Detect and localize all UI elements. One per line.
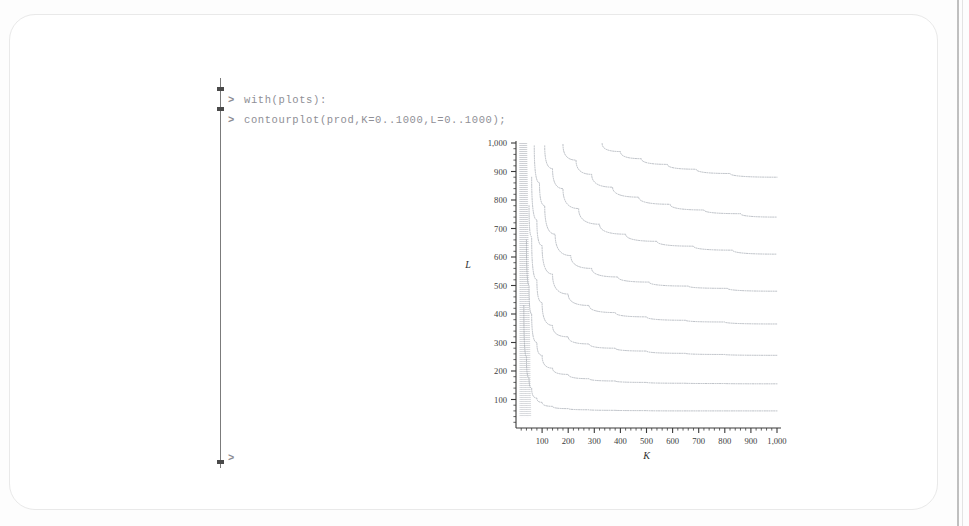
worksheet-page: >with(plots): >contourplot(prod,K=0..100… <box>9 14 938 510</box>
contour-plot-svg: 1002003004005006007008009001,00010020030… <box>452 135 800 465</box>
input-text-2[interactable]: contourplot(prod,K=0..1000,L=0..1000); <box>244 114 506 126</box>
execution-group-tick-bottom <box>217 460 224 464</box>
contour-curve <box>532 177 777 324</box>
x-tick-label: 100 <box>536 436 549 446</box>
y-tick-label: 500 <box>494 281 507 291</box>
plot-axes <box>511 141 781 433</box>
y-axis-label: L <box>464 259 471 270</box>
execution-group-tick-top <box>217 87 224 91</box>
y-tick-label: 700 <box>494 224 507 234</box>
y-tick-label: 200 <box>494 366 507 376</box>
prompt-symbol-2: > <box>228 114 244 126</box>
prompt-symbol-1: > <box>228 94 244 106</box>
contour-curve <box>563 144 777 217</box>
contour-curve-dense <box>522 143 524 417</box>
x-tick-label: 200 <box>562 436 575 446</box>
y-tick-label: 900 <box>494 167 507 177</box>
contour-curve-dense <box>520 143 521 417</box>
contour-curve-dense <box>523 143 525 417</box>
x-axis-label: K <box>642 450 651 461</box>
contour-curve-dense <box>521 143 522 417</box>
vertical-scrollbar-rule[interactable] <box>957 0 959 526</box>
contour-curve <box>545 146 777 254</box>
x-tick-label: 900 <box>744 436 757 446</box>
contour-curve <box>524 305 777 410</box>
contour-plot-output[interactable]: 1002003004005006007008009001,00010020030… <box>452 135 800 465</box>
y-tick-label: 300 <box>494 338 507 348</box>
x-tick-label: 300 <box>588 436 601 446</box>
y-tick-label: 800 <box>494 195 507 205</box>
contour-curve-dense <box>523 143 525 417</box>
plot-labels: 1002003004005006007008009001,00010020030… <box>464 138 786 461</box>
y-tick-label: 600 <box>494 252 507 262</box>
contour-curve-dense <box>521 143 522 417</box>
contour-curve <box>534 146 777 291</box>
x-tick-label: 400 <box>614 436 627 446</box>
x-tick-label: 1,000 <box>767 436 786 446</box>
input-text-1[interactable]: with(plots): <box>244 94 327 106</box>
execution-group-bracket[interactable] <box>215 78 229 468</box>
x-tick-label: 600 <box>666 436 679 446</box>
input-line-1[interactable]: >with(plots): <box>228 94 327 106</box>
contour-curve <box>526 240 777 384</box>
input-line-2[interactable]: >contourplot(prod,K=0..1000,L=0..1000); <box>228 114 506 126</box>
vertical-scrollbar-edge <box>962 0 963 526</box>
contour-curves <box>520 143 777 417</box>
contour-curve <box>602 144 777 178</box>
execution-group-rule <box>220 78 221 468</box>
input-line-3[interactable]: > <box>228 452 244 464</box>
contour-curve <box>529 206 777 356</box>
prompt-symbol-3: > <box>228 452 244 464</box>
y-tick-label: 100 <box>494 395 507 405</box>
execution-group-tick-middle <box>217 107 224 111</box>
x-tick-label: 500 <box>640 436 653 446</box>
y-tick-label: 400 <box>494 309 507 319</box>
contour-curve-dense <box>522 143 523 417</box>
contour-curve-dense <box>525 143 528 417</box>
x-tick-label: 800 <box>718 436 731 446</box>
y-tick-label: 1,000 <box>488 138 507 148</box>
x-tick-label: 700 <box>692 436 705 446</box>
contour-curve-dense <box>524 143 527 417</box>
